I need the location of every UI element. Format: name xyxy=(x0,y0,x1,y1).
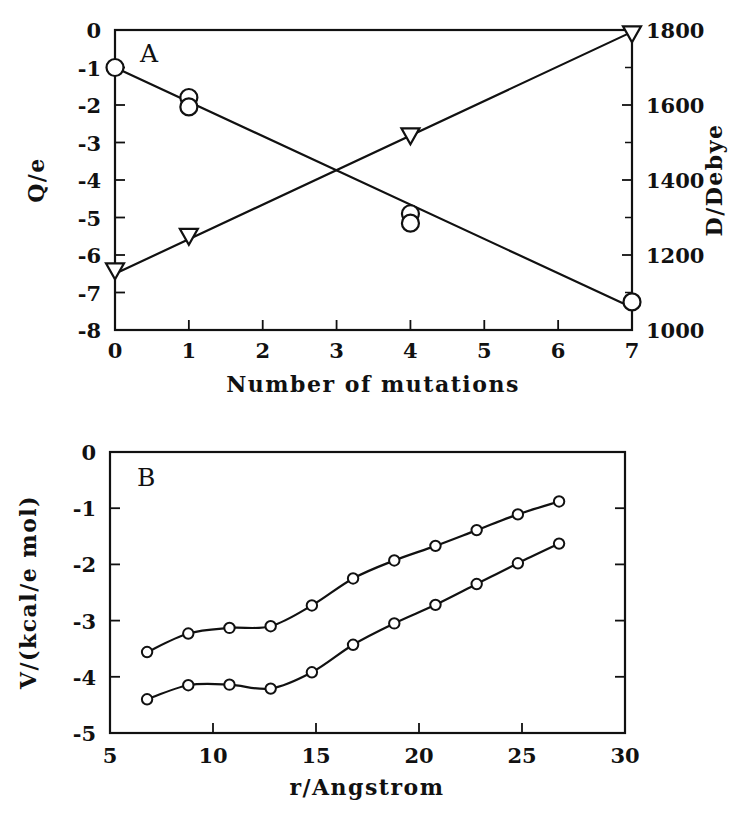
panel-a-y-ticks-left xyxy=(115,68,125,293)
x-tick-label: 2 xyxy=(255,338,270,363)
data-point xyxy=(224,623,234,633)
data-point xyxy=(389,618,399,628)
y-tick-label-left: 0 xyxy=(86,18,101,43)
panel-a-y-axis-label-right: D/Debye xyxy=(701,124,727,237)
data-point xyxy=(389,555,399,565)
y-tick-label-left: -4 xyxy=(78,168,101,193)
panel-a-x-axis-label: Number of mutations xyxy=(226,371,520,397)
y-tick-label-left: -7 xyxy=(78,281,101,306)
data-point xyxy=(554,538,564,548)
panel-b-y-ticks xyxy=(110,508,625,677)
panel-b-y-tick-labels: 0-1-2-3-4-5 xyxy=(73,440,96,746)
y-tick-label-left: -2 xyxy=(78,93,101,118)
charge-data-point xyxy=(107,59,124,76)
x-tick-label: 25 xyxy=(507,743,536,768)
data-point xyxy=(554,496,564,506)
data-point xyxy=(430,541,440,551)
panel-b-letter: B xyxy=(137,463,155,492)
y-tick-label: -4 xyxy=(73,665,96,690)
x-tick-label: 15 xyxy=(301,743,330,768)
x-tick-label: 0 xyxy=(108,338,123,363)
x-tick-label: 5 xyxy=(103,743,118,768)
panel-a-y-tick-labels-left: 0-1-2-3-4-5-6-7-8 xyxy=(78,18,101,343)
data-point xyxy=(348,573,358,583)
panel-a-x-ticks xyxy=(115,320,632,330)
panel-a-frame xyxy=(115,30,632,330)
panel-a-y-tick-labels-right: 10001200140016001800 xyxy=(646,18,704,343)
x-tick-label: 1 xyxy=(182,338,197,363)
data-point xyxy=(307,667,317,677)
panel-a-y-ticks-right xyxy=(622,68,632,293)
figure-container: A 01234567 0-1-2-3-4-5-6-7-8 10001200140… xyxy=(0,0,752,826)
y-tick-label: -2 xyxy=(73,552,96,577)
panel-a-letter: A xyxy=(139,39,159,68)
data-point xyxy=(348,640,358,650)
y-tick-label-left: -6 xyxy=(78,243,101,268)
y-tick-label-left: -1 xyxy=(78,56,101,81)
panel-b-x-tick-labels: 51015202530 xyxy=(103,743,640,768)
y-tick-label: -1 xyxy=(73,496,96,521)
x-tick-label: 7 xyxy=(625,338,640,363)
data-point xyxy=(142,647,152,657)
data-point xyxy=(183,628,193,638)
x-tick-label: 4 xyxy=(403,338,418,363)
x-tick-label: 10 xyxy=(198,743,227,768)
data-point xyxy=(513,509,523,519)
x-tick-label: 3 xyxy=(329,338,344,363)
y-tick-label-right: 1600 xyxy=(646,93,704,118)
x-tick-label: 30 xyxy=(610,743,639,768)
panel-a: A 01234567 0-1-2-3-4-5-6-7-8 10001200140… xyxy=(23,18,727,397)
panel-b: B 51015202530 0-1-2-3-4-5 r/Angstrom V/(… xyxy=(15,440,640,800)
panel-a-data xyxy=(106,26,641,310)
data-point xyxy=(513,558,523,568)
data-point xyxy=(307,600,317,610)
y-tick-label-left: -3 xyxy=(78,131,101,156)
data-point xyxy=(430,600,440,610)
panel-b-x-axis-label: r/Angstrom xyxy=(289,774,444,800)
x-tick-label: 6 xyxy=(551,338,566,363)
data-point xyxy=(471,579,481,589)
panel-a-x-tick-labels: 01234567 xyxy=(108,338,640,363)
data-point xyxy=(265,683,275,693)
charge-data-point xyxy=(402,215,419,232)
dipole-data-point xyxy=(401,128,419,144)
data-point xyxy=(265,621,275,631)
curve-lower xyxy=(147,544,559,700)
panel-b-x-ticks xyxy=(213,723,522,733)
y-tick-label-left: -8 xyxy=(78,318,101,343)
data-point xyxy=(471,525,481,535)
y-tick-label-left: -5 xyxy=(78,206,101,231)
y-tick-label-right: 1800 xyxy=(646,18,704,43)
y-tick-label-right: 1000 xyxy=(646,318,704,343)
y-tick-label: -5 xyxy=(73,721,96,746)
panel-b-data xyxy=(142,496,564,704)
y-tick-label-right: 1200 xyxy=(646,243,704,268)
data-point xyxy=(224,679,234,689)
data-point xyxy=(142,694,152,704)
charge-data-point xyxy=(624,293,641,310)
panel-b-y-axis-label: V/(kcal/e mol) xyxy=(15,495,41,690)
y-tick-label: -3 xyxy=(73,609,96,634)
x-tick-label: 5 xyxy=(477,338,492,363)
figure-svg: A 01234567 0-1-2-3-4-5-6-7-8 10001200140… xyxy=(0,0,752,826)
data-point xyxy=(183,680,193,690)
panel-a-y-axis-label-left: Q/e xyxy=(23,157,49,203)
x-tick-label: 20 xyxy=(404,743,433,768)
y-tick-label: 0 xyxy=(81,440,96,465)
y-tick-label-right: 1400 xyxy=(646,168,704,193)
charge-data-point xyxy=(180,98,197,115)
